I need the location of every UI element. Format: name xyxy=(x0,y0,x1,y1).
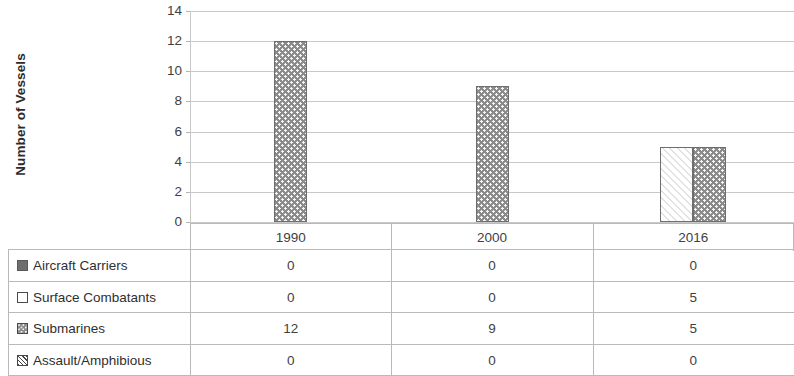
table-cell: 5 xyxy=(593,282,794,314)
legend-swatch-icon xyxy=(17,292,28,303)
axis-tick-mark-14 xyxy=(186,11,190,12)
x-axis-category-1990: 1990 xyxy=(190,224,391,251)
y-axis-tick-labels: 14121086420 xyxy=(140,0,182,228)
legend-swatch-icon xyxy=(17,355,28,366)
legend-label: Submarines xyxy=(33,321,105,336)
bar-surface-combatants-2016 xyxy=(660,147,693,222)
table-column-separator xyxy=(593,345,594,376)
legend-entry: Aircraft Carriers xyxy=(8,250,190,282)
table-row: Aircraft Carriers000 xyxy=(8,249,794,281)
x-axis-category-2016: 2016 xyxy=(593,224,794,251)
table-row: Surface Combatants005 xyxy=(8,281,794,313)
table-cell: 0 xyxy=(190,282,391,314)
y-axis-line xyxy=(190,11,191,222)
table-row: Assault/Amphibious000 xyxy=(8,344,794,376)
table-cell: 0 xyxy=(190,250,391,282)
table-cell: 5 xyxy=(593,313,794,345)
table-cell: 0 xyxy=(190,345,391,376)
y-axis-tick-2: 2 xyxy=(140,185,182,199)
y-axis-title: Number of Vessels xyxy=(0,0,40,228)
axis-tick-mark-4 xyxy=(186,162,190,163)
x-axis-category-strip: 199020002016 xyxy=(190,223,794,250)
bar-chart-with-data-table: Number of Vessels 14121086420 1990200020… xyxy=(0,0,794,376)
axis-tick-mark-8 xyxy=(186,101,190,102)
legend-label: Surface Combatants xyxy=(33,290,156,305)
x-axis-category-2000: 2000 xyxy=(391,224,592,251)
table-column-separator xyxy=(391,250,392,282)
legend-label: Aircraft Carriers xyxy=(33,258,128,273)
table-cell: 0 xyxy=(593,345,794,376)
table-column-separator xyxy=(593,250,594,282)
table-cell: 0 xyxy=(391,250,592,282)
bar-submarines-1990 xyxy=(274,41,307,222)
table-cell: 9 xyxy=(391,313,592,345)
table-column-separator xyxy=(593,282,594,314)
axis-tick-mark-12 xyxy=(186,41,190,42)
y-axis-tick-14: 14 xyxy=(140,4,182,18)
table-row: Submarines1295 xyxy=(8,312,794,344)
table-column-separator xyxy=(391,313,392,345)
y-axis-tick-6: 6 xyxy=(140,125,182,139)
table-cell: 12 xyxy=(190,313,391,345)
data-table: Aircraft Carriers000Surface Combatants00… xyxy=(8,249,794,376)
y-axis-title-label: Number of Vessels xyxy=(13,53,28,176)
table-cell: 0 xyxy=(391,282,592,314)
table-column-separator xyxy=(593,313,594,345)
category-separator-2 xyxy=(593,224,594,251)
legend-label: Assault/Amphibious xyxy=(33,353,152,368)
y-axis-tick-0: 0 xyxy=(140,215,182,229)
table-cell: 0 xyxy=(593,250,794,282)
axis-tick-mark-6 xyxy=(186,132,190,133)
bar-submarines-2016 xyxy=(693,147,726,222)
legend-entry: Submarines xyxy=(8,313,190,345)
y-axis-tick-8: 8 xyxy=(140,95,182,109)
legend-entry: Surface Combatants xyxy=(8,282,190,314)
table-column-separator xyxy=(391,345,392,376)
gridline-14 xyxy=(190,11,794,12)
plot-area xyxy=(190,11,794,222)
table-cell: 0 xyxy=(391,345,592,376)
legend-swatch-icon xyxy=(17,323,28,334)
y-axis-tick-12: 12 xyxy=(140,34,182,48)
y-axis-tick-10: 10 xyxy=(140,65,182,79)
legend-swatch-icon xyxy=(17,260,28,271)
axis-tick-mark-2 xyxy=(186,192,190,193)
y-axis-tick-4: 4 xyxy=(140,155,182,169)
category-strip-edge-left xyxy=(190,224,191,251)
category-separator-1 xyxy=(391,224,392,251)
axis-tick-mark-10 xyxy=(186,71,190,72)
legend-entry: Assault/Amphibious xyxy=(8,345,190,376)
table-column-separator xyxy=(391,282,392,314)
bar-submarines-2000 xyxy=(476,86,509,222)
